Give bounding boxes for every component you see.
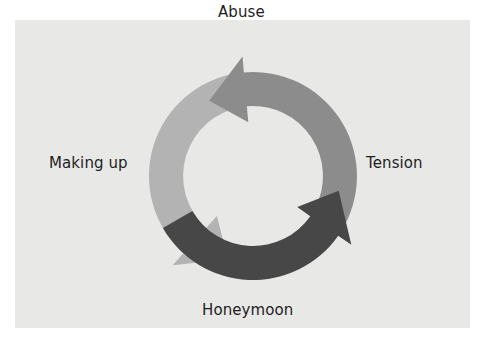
label-honeymoon: Honeymoon bbox=[202, 301, 293, 319]
honeymoon-to-tension-arrow bbox=[163, 191, 351, 280]
label-making-up: Making up bbox=[49, 154, 128, 172]
label-abuse: Abuse bbox=[218, 3, 265, 21]
label-tension: Tension bbox=[366, 154, 423, 172]
